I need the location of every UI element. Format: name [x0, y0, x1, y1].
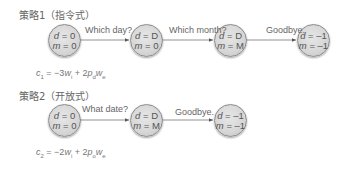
formula-coef: + 2	[72, 147, 87, 157]
m-value: 0	[153, 40, 158, 51]
m-value: –1	[318, 40, 329, 51]
m-value: M	[236, 40, 244, 51]
edge-label-goodbye: Goodbye.	[175, 107, 214, 117]
equals: =	[307, 40, 318, 51]
formula-coef: + 2	[72, 68, 87, 78]
equals: =	[60, 120, 71, 131]
edge-label-which-day: Which day?	[85, 25, 132, 35]
strategy2-title: 策略2（开放式）	[19, 88, 95, 103]
strategy2-cost-formula: c2 = −2wi + 2powe	[36, 147, 106, 159]
equals: =	[224, 120, 235, 131]
equals: =	[142, 40, 153, 51]
edge-label-what-date: What date?	[82, 104, 128, 114]
formula-coef: = −3	[44, 68, 65, 78]
formula-sub: e	[102, 74, 105, 80]
m-var: m	[216, 120, 224, 131]
state-node-s2-end: d = –1 m = –1	[214, 104, 247, 137]
m-var: m	[299, 40, 307, 51]
formula-sub: e	[102, 153, 105, 159]
equals: =	[225, 40, 236, 51]
equals: =	[141, 120, 152, 131]
m-value: M	[152, 120, 160, 131]
state-node-s2-date: d = D m = M	[130, 104, 163, 137]
strategy1-cost-formula: c1 = −3wi + 2pdwe	[36, 68, 106, 80]
equals: =	[60, 40, 71, 51]
m-value: –1	[235, 120, 246, 131]
state-node-s1-start: d = 0 m = 0	[48, 24, 81, 57]
m-value: 0	[71, 120, 76, 131]
edge-label-which-month: Which month?	[169, 25, 227, 35]
m-value: 0	[71, 40, 76, 51]
m-var: m	[217, 40, 225, 51]
formula-coef: = −2	[44, 147, 65, 157]
state-node-s1-day: d = D m = 0	[130, 24, 163, 57]
state-node-s2-start: d = 0 m = 0	[48, 104, 81, 137]
m-var: m	[133, 120, 141, 131]
edge-label-goodbye: Goodbye.	[266, 25, 305, 35]
